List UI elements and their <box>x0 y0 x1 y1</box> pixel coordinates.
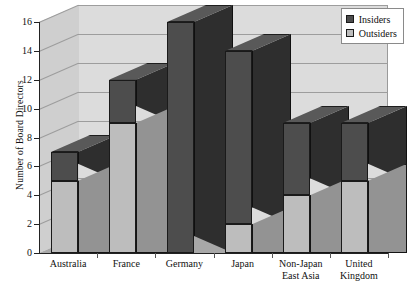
y-tick-mark <box>34 109 39 110</box>
legend-item-insiders: Insiders <box>346 12 397 26</box>
legend-item-outsiders: Outsiders <box>346 26 397 40</box>
y-tick-label: 12 <box>16 75 32 85</box>
legend-swatch-insiders <box>346 15 354 23</box>
plot-area <box>0 0 409 296</box>
bar-side-outsiders <box>368 164 407 253</box>
bar-segment-insiders <box>341 123 368 181</box>
y-tick-label: 0 <box>16 248 32 258</box>
y-tick-mark <box>34 253 39 254</box>
legend-label-insiders: Insiders <box>359 14 391 25</box>
bar-united-kingdom <box>0 0 409 296</box>
y-axis-labels: 0246810121416 <box>14 0 32 296</box>
y-tick-label: 6 <box>16 161 32 171</box>
legend-swatch-outsiders <box>346 29 354 37</box>
y-tick-label: 14 <box>16 46 32 56</box>
y-tick-mark <box>34 22 39 23</box>
y-tick-mark <box>34 138 39 139</box>
y-tick-label: 2 <box>16 219 32 229</box>
chart-container: Number of Board Directors 0246810121416 … <box>0 0 409 296</box>
y-tick-label: 16 <box>16 17 32 27</box>
y-tick-mark <box>34 195 39 196</box>
bar-segment-outsiders <box>341 181 368 253</box>
x-axis-label: United Kingdom <box>319 258 399 281</box>
y-tick-mark <box>34 224 39 225</box>
legend-label-outsiders: Outsiders <box>359 28 397 39</box>
y-tick-mark <box>34 166 39 167</box>
y-tick-label: 4 <box>16 190 32 200</box>
chart-legend: Insiders Outsiders <box>341 8 404 44</box>
y-tick-mark <box>34 51 39 52</box>
y-tick-mark <box>34 80 39 81</box>
y-tick-label: 10 <box>16 104 32 114</box>
y-tick-label: 8 <box>16 133 32 143</box>
